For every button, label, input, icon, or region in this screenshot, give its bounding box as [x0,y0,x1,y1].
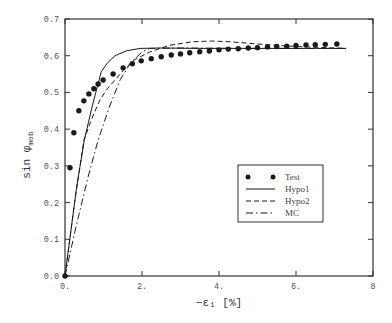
x-tick-label: 6. [291,282,301,292]
plot-frame [65,19,373,276]
data-point [187,50,192,55]
axis-tick-labels: 0.2.4.6.80.00.10.20.30.40.50.60.7 [44,15,376,292]
data-point [255,45,260,50]
data-point [159,54,164,59]
data-point [178,51,183,56]
y-axis-label: sin φmob [21,131,35,179]
data-point [76,108,81,113]
legend-marker-icon [246,175,251,180]
series-hypo2 [65,41,346,276]
data-point [91,86,96,91]
data-point [334,41,339,46]
series-line [65,48,346,276]
chart-canvas: 0.2.4.6.80.00.10.20.30.40.50.60.7 −ε₁ [%… [0,0,392,323]
data-point [323,42,328,47]
data-point [86,91,91,96]
y-tick-label: 0.2 [44,199,59,209]
data-point [67,165,72,170]
svg-text:sin φmob: sin φmob [21,131,35,179]
legend-marker-icon [271,175,276,180]
x-tick-label: 4. [214,282,224,292]
legend-label: Hypo2 [285,196,310,206]
data-point [71,130,76,135]
series-mc [65,48,346,276]
y-tick-label: 0.4 [44,125,59,135]
x-tick-label: 2. [137,282,147,292]
legend: TestHypo1Hypo2MC [238,165,323,222]
x-axis-label: −ε₁ [%] [196,297,242,309]
data-point [110,71,115,76]
legend-label: MC [285,208,299,218]
series-line [65,41,346,276]
data-point [207,48,212,53]
x-tick-label: 0. [60,282,70,292]
data-point [226,46,231,51]
data-point [313,42,318,47]
x-tick-label: 8 [370,282,375,292]
y-axis-label-main: sin φ [21,145,33,178]
legend-label: Test [285,172,300,182]
y-tick-label: 0.6 [44,52,59,62]
y-tick-label: 0.1 [44,235,59,245]
data-point [293,43,298,48]
y-tick-label: 0.5 [44,88,59,98]
y-tick-label: 0.0 [44,272,59,282]
series-line [65,48,346,276]
y-axis-label-sub: mob [26,131,35,146]
data-point [139,58,144,63]
legend-label: Hypo1 [285,184,310,194]
data-point [81,98,86,103]
y-tick-label: 0.7 [44,15,59,25]
data-series [62,41,346,279]
data-point [197,49,202,54]
series-hypo1 [65,48,346,276]
data-point [169,52,174,57]
y-tick-label: 0.3 [44,162,59,172]
data-point [149,56,154,61]
axis-ticks [65,19,373,276]
data-point [100,77,105,82]
series-test [62,41,339,278]
